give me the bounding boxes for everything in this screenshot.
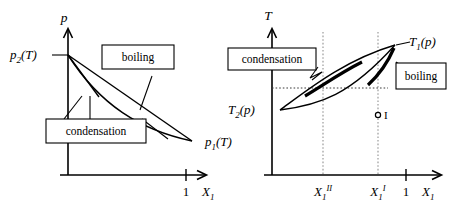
right-T1-label: T1(p) bbox=[409, 34, 436, 52]
right-label-T2: T2(p) bbox=[228, 102, 255, 120]
right-T2-arg: (p) bbox=[240, 102, 255, 117]
left-condensation-label: condensation bbox=[66, 125, 127, 137]
left-p2-label: p2(T) bbox=[9, 47, 37, 65]
right-panel: I condensation boiling T T1(p) bbox=[228, 8, 446, 202]
left-p1-label: p1(T) bbox=[204, 134, 232, 152]
left-y-axis-label: p bbox=[60, 10, 68, 25]
x1I-sup: I bbox=[382, 183, 387, 193]
x1II-sup: II bbox=[325, 183, 333, 193]
right-tick-label-X1I: X1I bbox=[369, 183, 386, 202]
right-callout-boiling: boiling bbox=[396, 62, 446, 89]
left-x-axis bbox=[60, 169, 207, 181]
left-callout-condensation: condensation bbox=[46, 96, 168, 143]
point-I-label: I bbox=[384, 109, 388, 121]
left-boiling-label: boiling bbox=[122, 51, 155, 64]
left-label-p2: p2(T) bbox=[9, 47, 68, 65]
left-x-axis-label: X1 bbox=[201, 184, 214, 202]
right-x-axis bbox=[264, 169, 442, 181]
right-x-axis-sub: 1 bbox=[430, 192, 435, 202]
right-T2-label: T2(p) bbox=[228, 102, 255, 120]
left-panel: boiling condensation p p2(T) bbox=[9, 10, 232, 202]
right-tick-label-X1II: X1II bbox=[313, 183, 333, 202]
right-boiling-label: boiling bbox=[405, 70, 438, 83]
point-I-dot bbox=[375, 112, 380, 117]
right-y-axis-label: T bbox=[264, 8, 273, 23]
left-y-axis bbox=[64, 29, 73, 176]
right-condensation-label: condensation bbox=[242, 53, 303, 65]
left-callout-boiling: boiling bbox=[102, 45, 174, 110]
left-cond-leader-a bbox=[64, 96, 82, 119]
left-condensation-branch bbox=[68, 55, 99, 97]
right-x-axis-label: X1 bbox=[421, 184, 434, 202]
left-p2-arg: (T) bbox=[21, 47, 37, 62]
left-x-axis-sub: 1 bbox=[210, 192, 215, 202]
x1II-sub: 1 bbox=[322, 192, 327, 202]
right-label-T1: T1(p) bbox=[396, 34, 436, 52]
right-T1-leader bbox=[396, 42, 410, 45]
right-callout-condensation: condensation bbox=[228, 48, 322, 80]
right-x-tick-label: 1 bbox=[403, 184, 410, 199]
left-boiling-leader bbox=[140, 76, 152, 110]
right-point-marker: I bbox=[375, 109, 388, 121]
left-p1-arg: (T) bbox=[216, 134, 232, 149]
left-label-p1: p1(T) bbox=[204, 134, 232, 152]
figure-container: boiling condensation p p2(T) bbox=[0, 0, 449, 203]
phase-diagram-svg: boiling condensation p p2(T) bbox=[0, 0, 449, 203]
x1I-sub: 1 bbox=[378, 192, 383, 202]
left-x-tick-label: 1 bbox=[183, 184, 190, 199]
right-T1-arg: (p) bbox=[421, 34, 436, 49]
